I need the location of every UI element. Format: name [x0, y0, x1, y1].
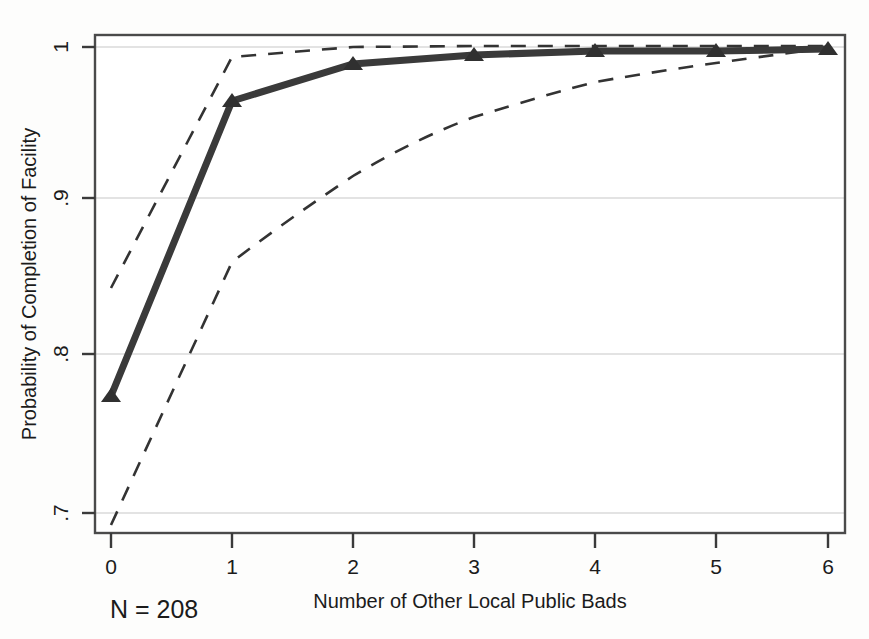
y-tick-label-0.9: .9	[49, 189, 72, 207]
x-axis-title: Number of Other Local Public Bads	[313, 590, 627, 612]
x-tick-label-4: 4	[589, 555, 601, 578]
y-tick-label-0.7: .7	[49, 504, 72, 522]
x-tick-label-2: 2	[347, 555, 359, 578]
y-tick-label-0.8: .8	[49, 345, 72, 363]
y-axis-tick-labels: 1 .9 .8 .7	[49, 41, 72, 522]
plot-background	[95, 35, 845, 533]
y-tick-label-1: 1	[49, 41, 72, 53]
sample-size-note: N = 208	[110, 595, 198, 623]
x-tick-label-0: 0	[105, 555, 117, 578]
x-tick-label-6: 6	[822, 555, 834, 578]
x-tick-label-5: 5	[710, 555, 722, 578]
x-axis-tick-labels: 0 1 2 3 4 5 6	[105, 555, 834, 578]
x-axis-ticks	[111, 533, 828, 548]
line-chart: 1 .9 .8 .7 Probability of Completion of …	[0, 0, 869, 639]
x-tick-label-3: 3	[468, 555, 480, 578]
y-axis-title: Probability of Completion of Facility	[18, 128, 40, 440]
y-axis-ticks	[82, 47, 95, 513]
figure-canvas: 1 .9 .8 .7 Probability of Completion of …	[0, 0, 869, 639]
x-tick-label-1: 1	[226, 555, 238, 578]
